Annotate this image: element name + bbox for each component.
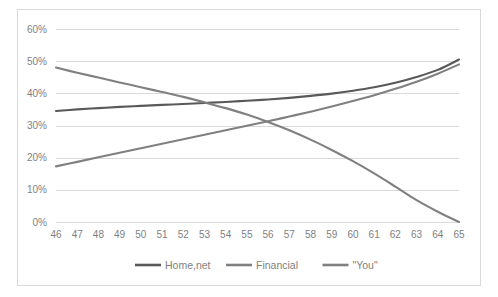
- legend-label: Home,net: [165, 259, 211, 271]
- line-chart-plot: 0%10%20%30%40%50%60%46474849505152535455…: [0, 0, 498, 297]
- x-axis-tick-label: 46: [50, 229, 62, 240]
- y-axis-tick-label: 0%: [33, 217, 48, 228]
- x-axis-tick-label: 55: [241, 229, 253, 240]
- series-line-homenet: [56, 60, 459, 111]
- x-axis-tick-label: 50: [135, 229, 147, 240]
- x-axis-tick-label: 52: [178, 229, 190, 240]
- x-axis-tick-label: 49: [114, 229, 126, 240]
- x-axis-tick-label: 64: [432, 229, 444, 240]
- x-axis-tick-label: 54: [220, 229, 232, 240]
- chart-container: 0%10%20%30%40%50%60%46474849505152535455…: [0, 0, 498, 297]
- series-line-financial: [56, 64, 459, 166]
- legend-item[interactable]: "You": [323, 259, 378, 271]
- x-axis-tick-label: 51: [156, 229, 168, 240]
- x-axis-tick-label: 63: [411, 229, 423, 240]
- x-axis-tick-label: 62: [390, 229, 402, 240]
- x-axis-tick-label: 56: [263, 229, 275, 240]
- legend-item[interactable]: Financial: [226, 259, 298, 271]
- x-axis-tick-label: 48: [93, 229, 105, 240]
- x-axis-tick-label: 47: [72, 229, 84, 240]
- x-axis-tick-label: 57: [284, 229, 296, 240]
- x-axis-tick-label: 60: [347, 229, 359, 240]
- x-axis-tick-label: 53: [199, 229, 211, 240]
- legend-item[interactable]: Home,net: [135, 259, 211, 271]
- series-line-you: [56, 68, 459, 222]
- y-axis-tick-label: 20%: [27, 152, 47, 163]
- x-axis-tick-label: 61: [369, 229, 381, 240]
- x-axis-tick-label: 65: [453, 229, 465, 240]
- x-axis-tick-label: 59: [326, 229, 338, 240]
- y-axis-tick-label: 10%: [27, 184, 47, 195]
- y-axis-tick-label: 50%: [27, 56, 47, 67]
- y-axis-tick-label: 40%: [27, 88, 47, 99]
- legend-label: Financial: [256, 259, 298, 271]
- y-axis-tick-label: 30%: [27, 120, 47, 131]
- y-axis-tick-label: 60%: [27, 24, 47, 35]
- legend-label: "You": [353, 259, 378, 271]
- x-axis-tick-label: 58: [305, 229, 317, 240]
